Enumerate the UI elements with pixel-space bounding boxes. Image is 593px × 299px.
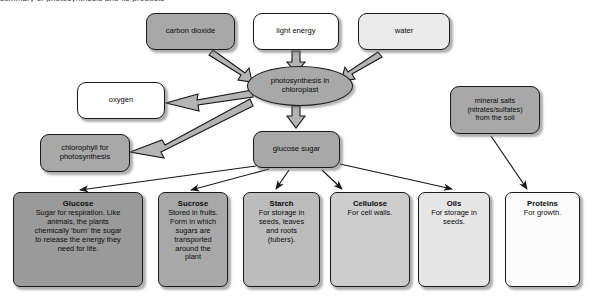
product-card-proteins-title: Proteins [506,199,579,208]
product-card-cellulose-title: Cellulose [331,199,409,208]
node-oxygen-label: oxygen [106,96,137,105]
node-chlorophyll-label: chlorophyll for photosynthesis [57,144,114,162]
product-card-cellulose[interactable]: Cellulose For cell walls. [330,192,410,287]
node-photosynthesis[interactable]: photosynthesis in chloroplast [247,66,353,106]
arrow-photosynthesis-to-oxygen [166,90,253,111]
product-card-glucose[interactable]: Glucose Sugar for respiration. Like anim… [13,192,143,287]
arrow-glucose-to-sucrose-card [191,169,269,190]
product-card-proteins[interactable]: Proteins For growth. [505,192,580,287]
product-card-starch[interactable]: Starch For storage in seeds, leaves and … [243,192,320,287]
node-oxygen[interactable]: oxygen [77,82,165,119]
product-card-oils-title: Oils [419,199,489,208]
arrow-co2-to-photosynthesis [209,50,252,82]
product-card-starch-title: Starch [244,199,319,208]
diagram-canvas: summary of photosynthesis and its produc… [0,0,593,299]
node-carbon-dioxide[interactable]: carbon dioxide [146,13,235,50]
product-card-glucose-title: Glucose [14,199,142,208]
node-glucose-sugar[interactable]: glucose sugar [253,131,340,168]
node-glucose-sugar-label: glucose sugar [270,145,323,154]
node-light-energy-label: light energy [273,27,318,36]
arrow-photosynthesis-to-glucose [287,106,305,128]
node-chlorophyll[interactable]: chlorophyll for photosynthesis [40,134,130,172]
node-mineral-salts[interactable]: mineral salts (nitrates/sulfates) from t… [450,86,540,134]
arrow-glucose-to-cellulose-card [322,170,342,189]
arrow-glucose-to-starch-card [276,170,289,189]
product-card-starch-desc: For storage in seeds, leaves and roots (… [244,209,319,245]
node-light-energy[interactable]: light energy [253,13,339,50]
product-card-oils-desc: For storage in seeds. [419,209,489,227]
node-water-label: water [392,27,417,36]
product-card-glucose-desc: Sugar for respiration. Like animals, the… [14,209,142,253]
node-water[interactable]: water [358,13,450,50]
product-card-sucrose-desc: Stored in fruits. Form in which sugars a… [159,209,227,262]
node-mineral-salts-label: mineral salts (nitrates/sulfates) from t… [464,97,525,122]
product-card-oils[interactable]: Oils For storage in seeds. [418,192,490,287]
arrow-glucose-to-oils-card [340,164,452,189]
product-card-proteins-desc: For growth. [506,209,579,218]
arrow-minerals-to-proteins-card [491,136,527,189]
product-card-sucrose[interactable]: Sucrose Stored in fruits. Form in which … [158,192,228,287]
node-carbon-dioxide-label: carbon dioxide [163,27,218,36]
product-card-sucrose-title: Sucrose [159,199,227,208]
product-card-cellulose-desc: For cell walls. [331,209,409,218]
cropped-title-text: summary of photosynthesis and its produc… [0,0,593,2]
node-photosynthesis-label: photosynthesis in chloroplast [268,77,333,95]
